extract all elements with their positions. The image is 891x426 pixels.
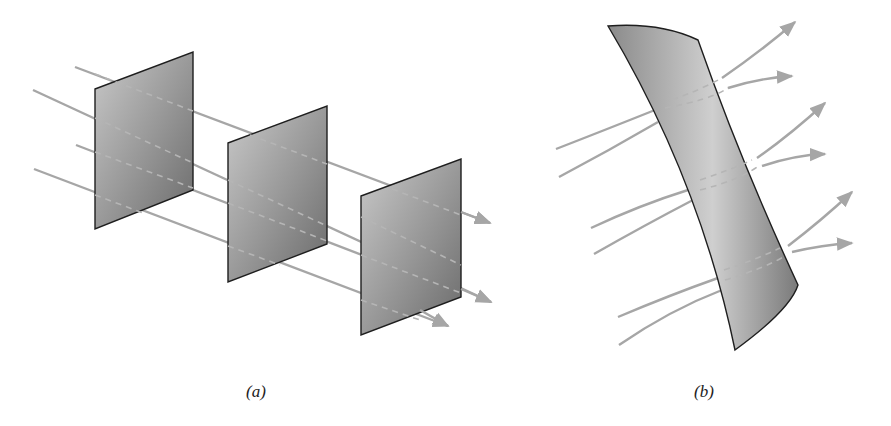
flat-surface-3	[361, 159, 461, 335]
caption-b: (b)	[694, 382, 714, 402]
flat-surface-2	[228, 106, 327, 282]
flat-surface-1	[95, 52, 193, 229]
flux-diagram	[0, 0, 891, 426]
caption-a: (a)	[246, 382, 266, 402]
panel-b	[556, 22, 852, 350]
panel-a	[33, 52, 491, 335]
curved-surface	[608, 25, 798, 350]
